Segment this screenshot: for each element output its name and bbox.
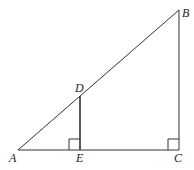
label-e: E (75, 151, 84, 165)
label-d: D (74, 81, 84, 95)
label-b: B (182, 6, 190, 20)
triangle-diagram: A E C B D (0, 0, 194, 170)
label-a: A (8, 151, 17, 165)
label-c: C (174, 151, 183, 165)
segment-ab (18, 10, 179, 150)
right-angle-marker-c (168, 139, 179, 150)
right-angle-marker-e (69, 139, 80, 150)
